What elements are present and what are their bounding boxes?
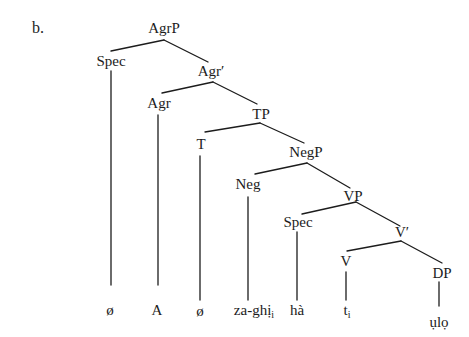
terminal-neg: za-ghịi: [234, 303, 274, 320]
branch-vbar-dp: [401, 241, 442, 263]
node-neg: Neg: [236, 177, 261, 192]
terminal-v-index: i: [348, 309, 351, 320]
branch-agrbar-tp: [213, 82, 257, 104]
terminal-agr: A: [152, 303, 163, 318]
branch-vp-spec: [302, 202, 356, 214]
branch-vp-vbar: [356, 202, 400, 226]
syntax-tree-diagram: b. AgrP Spec Agr′ Agr TP T NegP Neg VP S…: [0, 0, 469, 337]
node-spec-v: Spec: [283, 215, 312, 230]
terminal-t: ø: [196, 304, 204, 319]
terminal-neg-text: za-ghị: [234, 302, 271, 318]
node-spec-agr: Spec: [96, 54, 125, 69]
branch-agrbar-agr: [162, 82, 213, 93]
terminal-dp: ụlọ: [429, 315, 448, 330]
node-agrp: AgrP: [148, 21, 180, 36]
example-label: b.: [32, 20, 44, 36]
node-v: V: [341, 254, 352, 269]
branch-vbar-v: [347, 241, 401, 251]
node-negp: NegP: [289, 145, 322, 160]
branch-tp-negp: [260, 123, 304, 143]
tree-branches: [0, 0, 469, 337]
branch-agrp-agrbar: [164, 40, 208, 62]
terminal-v: ti: [344, 303, 351, 320]
branch-tp-t: [205, 123, 260, 132]
node-dp: DP: [432, 266, 451, 281]
node-v-bar: V′: [395, 225, 409, 240]
terminal-spec-v: hà: [290, 303, 304, 318]
terminal-spec-agr: ø: [106, 303, 114, 318]
terminal-neg-index: i: [271, 309, 274, 320]
node-agr: Agr: [147, 96, 170, 111]
branch-negp-neg: [255, 163, 307, 174]
branch-negp-vp: [307, 163, 350, 188]
node-t: T: [196, 137, 205, 152]
node-vp: VP: [343, 189, 362, 204]
node-tp: TP: [252, 107, 270, 122]
node-agr-bar: Agr′: [198, 64, 225, 79]
branch-agrp-spec: [111, 40, 164, 51]
